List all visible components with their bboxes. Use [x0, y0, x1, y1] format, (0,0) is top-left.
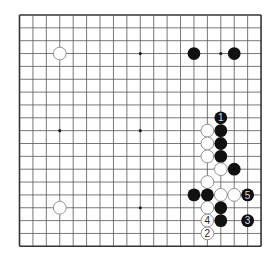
white-stone-icon [214, 163, 227, 176]
black-stone [188, 189, 201, 202]
black-stone-icon [214, 201, 227, 214]
white-stone [214, 189, 227, 202]
white-stone-icon [201, 124, 214, 137]
black-stone [228, 163, 241, 176]
white-stone-icon [53, 201, 66, 214]
white-stone [53, 47, 66, 60]
black-stone [214, 201, 227, 214]
black-stone-icon [214, 214, 227, 227]
white-stone-icon [201, 150, 214, 163]
black-stone: 1 [214, 111, 227, 124]
white-stone [201, 176, 214, 189]
black-stone: 5 [241, 189, 254, 202]
black-stone-icon [214, 150, 227, 163]
star-point-icon [219, 52, 222, 55]
go-board[interactable]: 15432 [0, 0, 277, 264]
black-stone-icon [201, 189, 214, 202]
white-stone-icon [201, 176, 214, 189]
black-stone-icon [228, 47, 241, 60]
white-stone-icon [53, 47, 66, 60]
white-stone [201, 150, 214, 163]
white-stone [53, 201, 66, 214]
black-stone [214, 124, 227, 137]
white-stone [228, 189, 241, 202]
star-point-icon [139, 206, 142, 209]
move-number-label: 4 [205, 215, 211, 226]
white-stone-icon [201, 201, 214, 214]
move-number-label: 1 [218, 112, 224, 123]
white-stone-icon [201, 137, 214, 150]
star-point-icon [139, 129, 142, 132]
white-stone: 2 [201, 227, 214, 240]
black-stone [228, 47, 241, 60]
black-stone-icon [214, 137, 227, 150]
move-number-label: 5 [245, 190, 251, 201]
black-stone [188, 47, 201, 60]
black-stone-icon [188, 47, 201, 60]
black-stone-icon [188, 189, 201, 202]
black-stone-icon [228, 163, 241, 176]
black-stone-icon [214, 124, 227, 137]
white-stone [214, 163, 227, 176]
star-point-icon [139, 52, 142, 55]
star-point-icon [58, 129, 61, 132]
black-stone [201, 189, 214, 202]
black-stone [214, 150, 227, 163]
white-stone [201, 124, 214, 137]
white-stone [201, 137, 214, 150]
move-number-label: 3 [245, 215, 251, 226]
move-number-label: 2 [205, 228, 211, 239]
black-stone [214, 214, 227, 227]
white-stone-icon [214, 189, 227, 202]
white-stone-icon [228, 189, 241, 202]
white-stone [201, 201, 214, 214]
white-stone: 4 [201, 214, 214, 227]
black-stone: 3 [241, 214, 254, 227]
black-stone [214, 137, 227, 150]
